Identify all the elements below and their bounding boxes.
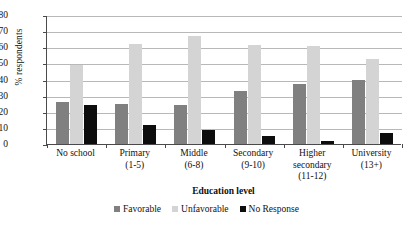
- bar-group: [165, 15, 224, 144]
- category-label: Highersecondary(11-12): [283, 148, 342, 183]
- category-label-line: (9-10): [224, 160, 283, 172]
- y-tick-label: 50: [0, 59, 8, 69]
- legend-item-no-response[interactable]: No Response: [240, 204, 299, 214]
- bar-no-response: [143, 125, 156, 144]
- bar-no-response: [262, 136, 275, 144]
- bar-group: [106, 15, 165, 144]
- category-label: Primary(1-5): [105, 148, 164, 183]
- bar-favorable: [293, 84, 306, 144]
- category-label-line: (13+): [342, 160, 401, 172]
- category-label-line: No school: [46, 148, 105, 160]
- category-label-line: secondary: [283, 160, 342, 172]
- bar-group: [225, 15, 284, 144]
- legend-item-unfavorable[interactable]: Unfavorable: [172, 204, 228, 214]
- y-tick-label: 0: [0, 140, 8, 150]
- bar-group: [47, 15, 106, 144]
- x-tick-mark: [402, 144, 403, 148]
- category-label-line: Secondary: [224, 148, 283, 160]
- bar-unfavorable: [188, 36, 201, 144]
- category-label: No school: [46, 148, 105, 183]
- bar-no-response: [380, 133, 393, 144]
- y-tick-label: 40: [0, 76, 8, 86]
- bar-groups: [47, 15, 402, 144]
- category-label-line: University: [342, 148, 401, 160]
- bar-favorable: [352, 80, 365, 145]
- bar-no-response: [84, 105, 97, 144]
- category-label-line: (11-12): [283, 171, 342, 183]
- bar-favorable: [115, 104, 128, 144]
- bar-unfavorable: [70, 65, 83, 144]
- y-tick-label: 10: [0, 124, 8, 134]
- bar-unfavorable: [248, 45, 261, 144]
- category-label-line: Higher: [283, 148, 342, 160]
- category-label-line: (1-5): [105, 160, 164, 172]
- plot-area: [46, 16, 401, 145]
- legend-label: Favorable: [123, 204, 161, 214]
- y-axis-title: % respondents: [14, 12, 24, 102]
- bar-chart: % respondents 80706050403020100 No schoo…: [0, 0, 413, 232]
- bar-unfavorable: [307, 46, 320, 144]
- bar-group: [343, 15, 402, 144]
- bar-favorable: [174, 105, 187, 144]
- legend-item-favorable[interactable]: Favorable: [114, 204, 161, 214]
- category-label: Middle(6-8): [164, 148, 223, 183]
- category-label: University(13+): [342, 148, 401, 183]
- x-axis-category-labels: No schoolPrimary(1-5)Middle(6-8)Secondar…: [46, 148, 401, 183]
- legend-swatch-icon: [172, 206, 178, 212]
- category-label: Secondary(9-10): [224, 148, 283, 183]
- y-tick-label: 60: [0, 43, 8, 53]
- bar-favorable: [56, 102, 69, 144]
- y-tick-label: 80: [0, 11, 8, 21]
- bar-unfavorable: [366, 59, 379, 144]
- legend-label: Unfavorable: [181, 204, 228, 214]
- category-label-line: (6-8): [164, 160, 223, 172]
- legend-label: No Response: [249, 204, 299, 214]
- y-tick-label: 20: [0, 108, 8, 118]
- bar-no-response: [202, 130, 215, 144]
- y-tick-label: 30: [0, 92, 8, 102]
- chart-legend: FavorableUnfavorableNo Response: [0, 204, 413, 214]
- y-tick-label: 70: [0, 27, 8, 37]
- bar-group: [284, 15, 343, 144]
- bar-favorable: [234, 91, 247, 144]
- category-label-line: Middle: [164, 148, 223, 160]
- legend-swatch-icon: [114, 206, 120, 212]
- x-axis-title: Education level: [46, 186, 401, 196]
- bar-no-response: [321, 141, 334, 144]
- bar-unfavorable: [129, 44, 142, 144]
- legend-swatch-icon: [240, 206, 246, 212]
- category-label-line: Primary: [105, 148, 164, 160]
